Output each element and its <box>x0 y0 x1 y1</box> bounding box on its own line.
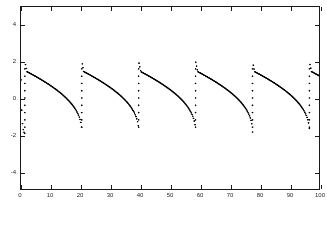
y-tick-label: 2 <box>2 58 16 64</box>
y-tick-label: -4 <box>2 169 16 175</box>
y-axis-tick-labels: -4-2024 <box>0 0 327 232</box>
y-tick-label: 0 <box>2 95 16 101</box>
y-tick-label: -2 <box>2 132 16 138</box>
figure: 0102030405060708090100 -4-2024 <box>0 0 327 232</box>
y-tick-label: 4 <box>2 21 16 27</box>
